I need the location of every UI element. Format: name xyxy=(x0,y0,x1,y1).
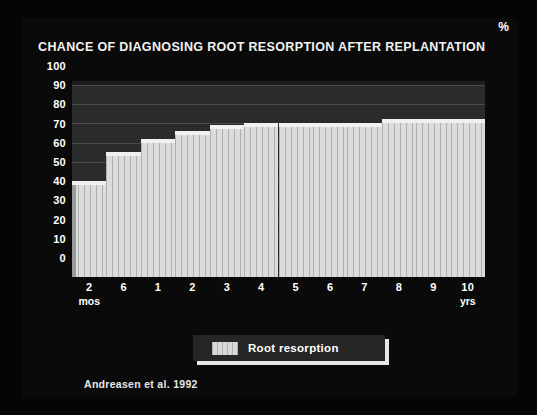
bar-segment xyxy=(382,123,416,277)
y-axis-tick: 90 xyxy=(53,79,66,91)
legend-swatch-icon xyxy=(212,342,238,355)
y-axis-unit: % xyxy=(498,20,509,34)
legend-label: Root resorption xyxy=(248,342,339,354)
legend: Root resorption xyxy=(193,335,385,361)
y-axis-tick: 20 xyxy=(53,214,66,226)
bar-top-face xyxy=(416,119,450,123)
y-axis-tick: 0 xyxy=(60,252,66,264)
bar-segment xyxy=(347,127,381,277)
bar-top-face xyxy=(382,119,416,123)
x-axis-tick: 10 xyxy=(461,281,474,293)
bar-top-face xyxy=(210,125,244,129)
page-title: CHANCE OF DIAGNOSING ROOT RESORPTION AFT… xyxy=(38,40,508,54)
x-axis-tick: 2 xyxy=(86,281,92,293)
y-axis-tick: 30 xyxy=(53,194,66,206)
bar-segment xyxy=(106,156,140,277)
bar-segment xyxy=(416,123,450,277)
y-axis-tick: 50 xyxy=(53,156,66,168)
y-axis-tick: 80 xyxy=(53,98,66,110)
y-axis-tick: 10 xyxy=(53,233,66,245)
x-axis-tick: 6 xyxy=(120,281,126,293)
x-axis-tick: 4 xyxy=(258,281,264,293)
x-axis-tick: 2 xyxy=(189,281,195,293)
gridline xyxy=(72,104,485,105)
x-axis-unit: mos xyxy=(78,295,100,307)
citation: Andreasen et al. 1992 xyxy=(84,378,198,390)
bar-top-face xyxy=(451,119,485,123)
y-axis: 0102030405060708090100 xyxy=(22,66,70,281)
y-axis-tick: 60 xyxy=(53,137,66,149)
x-axis-tick: 6 xyxy=(327,281,333,293)
bar-top-face xyxy=(141,139,175,143)
bar-top-face xyxy=(72,181,106,185)
bar-segment xyxy=(279,127,313,277)
x-axis-tick: 3 xyxy=(224,281,230,293)
y-axis-tick: 40 xyxy=(53,175,66,187)
bar-top-face xyxy=(106,152,140,156)
y-axis-tick: 70 xyxy=(53,118,66,130)
bar-segment xyxy=(72,185,106,277)
bar-top-face xyxy=(279,123,313,127)
x-axis: 2612345678910mosyrs xyxy=(72,281,497,315)
x-axis-tick: 1 xyxy=(155,281,161,293)
x-axis-tick: 5 xyxy=(292,281,298,293)
bar-top-face xyxy=(313,123,347,127)
bar-segment xyxy=(210,129,244,277)
gridline xyxy=(72,85,485,86)
plot-area xyxy=(72,85,485,277)
bar-segment xyxy=(175,135,209,277)
bar-left-shade xyxy=(72,185,76,277)
bar-segment xyxy=(313,127,347,277)
bar-segment xyxy=(451,123,485,277)
bar-segment xyxy=(244,127,278,277)
x-axis-tick: 7 xyxy=(361,281,367,293)
x-axis-tick: 9 xyxy=(430,281,436,293)
slide: CHANCE OF DIAGNOSING ROOT RESORPTION AFT… xyxy=(22,18,517,397)
bar-top-face xyxy=(347,123,381,127)
x-axis-tick: 8 xyxy=(396,281,402,293)
bar-segment xyxy=(141,143,175,277)
bar-top-face xyxy=(244,123,278,127)
bar-top-face xyxy=(175,131,209,135)
y-axis-tick: 100 xyxy=(47,60,66,72)
x-axis-unit: yrs xyxy=(460,295,476,307)
slide-frame: CHANCE OF DIAGNOSING ROOT RESORPTION AFT… xyxy=(0,0,537,415)
